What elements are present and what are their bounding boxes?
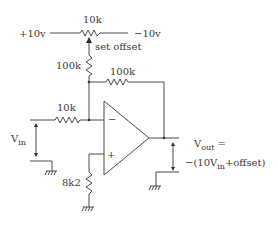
arrow-up-icon [171,142,175,146]
ground-icon [82,207,94,211]
vout-label: Vout = [193,138,226,152]
opamp-triangle [104,101,149,175]
junction-dot [163,137,166,140]
arrow-down-icon [34,153,38,157]
supply-positive-label: +10v [19,28,46,39]
opamp-inverting-label: − [108,114,116,125]
input-resistor [55,117,80,123]
arrow-up-icon [34,123,38,127]
opamp-noninverting-label: + [107,149,115,160]
bias-resistor [86,172,92,194]
offset-resistor [86,55,92,76]
pot-value-label: 10k [83,14,103,25]
potentiometer [80,30,100,36]
supply-negative-label: −10v [134,28,161,39]
circuit-schematic: +10v −10v 10k set offset 100k 100k − + 1… [0,0,278,226]
ground-icon [45,171,57,175]
arrow-down-icon [171,167,175,171]
vout-equation: −(10Vin+offset) [185,157,266,171]
feedback-resistor-label: 100k [110,66,136,77]
input-resistor-label: 10k [57,102,77,113]
vin-label: Vin [10,133,26,147]
offset-resistor-label: 100k [56,60,82,71]
feedback-resistor [106,79,128,85]
bias-resistor-label: 8k2 [62,177,81,188]
wiper-label: set offset [95,41,141,52]
wiper-arrow-icon [86,37,92,43]
ground-icon [149,186,161,190]
junction-dot [88,119,91,122]
